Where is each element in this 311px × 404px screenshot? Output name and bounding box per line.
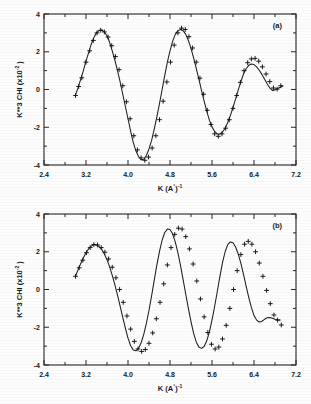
y-tick-label: 2 xyxy=(36,48,40,55)
y-tick-label: -2 xyxy=(34,124,40,131)
x-tick-label: 5.6 xyxy=(207,171,217,178)
x-tick-label: 4.0 xyxy=(123,171,133,178)
x-tick-label: 5.6 xyxy=(207,371,217,378)
x-tick-label: 2.4 xyxy=(39,371,49,378)
chart-panel-a: 2.43.24.04.85.66.47.2-4-2024(a)K (A°)-1K… xyxy=(0,0,311,200)
y-tick-label: -4 xyxy=(34,362,40,369)
y-tick-label: 0 xyxy=(36,86,40,93)
exafs-figure: 2.43.24.04.85.66.47.2-4-2024(a)K (A°)-1K… xyxy=(0,0,311,404)
y-tick-label: -4 xyxy=(34,162,40,169)
data-markers xyxy=(73,226,284,354)
x-tick-label: 6.4 xyxy=(249,171,259,178)
x-axis-title: K (A°)-1 xyxy=(158,383,183,393)
chart-panel-b: 2.43.24.04.85.66.47.2-4-2024(b)K (A°)-1K… xyxy=(0,198,311,404)
x-tick-label: 3.2 xyxy=(81,171,91,178)
panel-tag: (a) xyxy=(273,21,283,30)
x-tick-label: 4.8 xyxy=(165,371,175,378)
fit-curve xyxy=(76,229,281,351)
x-tick-label: 7.2 xyxy=(291,171,301,178)
plot-area-b: 2.43.24.04.85.66.47.2-4-2024(b)K (A°)-1K… xyxy=(0,198,311,404)
x-axis-title: K (A°)-1 xyxy=(158,183,183,193)
x-tick-label: 4.8 xyxy=(165,171,175,178)
x-tick-label: 3.2 xyxy=(81,371,91,378)
plot-svg-b: 2.43.24.04.85.66.47.2-4-2024(b)K (A°)-1K… xyxy=(0,198,311,404)
x-tick-label: 6.4 xyxy=(249,371,259,378)
y-tick-label: 2 xyxy=(36,248,40,255)
data-markers xyxy=(73,26,283,163)
x-tick-label: 2.4 xyxy=(39,171,49,178)
x-tick-label: 4.0 xyxy=(123,371,133,378)
plot-area-a: 2.43.24.04.85.66.47.2-4-2024(a)K (A°)-1K… xyxy=(0,0,311,200)
y-tick-label: 4 xyxy=(36,11,40,18)
y-axis-title: K**3 CHI (x10-2 ) xyxy=(14,61,24,118)
panel-tag: (b) xyxy=(272,221,282,230)
y-axis-title: K**3 CHI (x10-2 ) xyxy=(14,261,24,318)
y-tick-label: 0 xyxy=(36,286,40,293)
x-tick-label: 7.2 xyxy=(291,371,301,378)
y-tick-label: 4 xyxy=(36,211,40,218)
y-tick-label: -2 xyxy=(34,324,40,331)
fit-curve xyxy=(76,29,283,159)
plot-svg-a: 2.43.24.04.85.66.47.2-4-2024(a)K (A°)-1K… xyxy=(0,0,311,200)
